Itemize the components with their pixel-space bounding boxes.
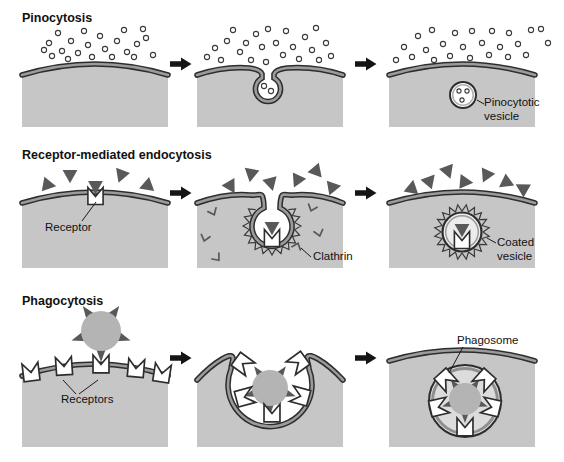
endocytosis-figure: Pinocytosis Receptor-mediated endocytosi… [0,0,564,462]
row-title-receptor-mediated: Receptor-mediated endocytosis [22,148,212,162]
step-arrow-icon [355,351,377,364]
phagocytosis-stage-1 [22,306,171,447]
callout-coated-vesicle: Coated vesicle [497,236,543,263]
particle [72,306,131,362]
pinocytosis-stage-2 [197,25,343,127]
step-arrow-icon [170,186,192,199]
cytoplasm [22,64,168,127]
cytoplasm [197,68,343,127]
pinocytosis-stage-1 [22,26,168,127]
row-phagocytosis [22,306,535,447]
row-title-pinocytosis: Pinocytosis [22,11,92,25]
pinocytotic-vesicle [450,82,476,108]
row-receptor-mediated-endocytosis [22,163,535,268]
callout-phagosome: Phagosome [457,334,518,348]
phagocytosis-stage-3 [389,350,535,447]
row-pinocytosis [22,25,551,127]
step-arrow-icon [355,186,377,199]
step-arrow-icon [170,57,192,70]
phagocytosis-stage-2 [197,351,343,447]
callout-pinocytotic-vesicle: Pinocytotic vesicle [484,96,546,123]
solute-dots [41,26,155,61]
solute-dots [393,26,550,62]
row-title-phagocytosis: Phagocytosis [22,294,103,308]
callout-receptors: Receptors [61,393,113,407]
callout-receptor: Receptor [45,221,92,235]
particle [244,366,295,415]
callout-clathrin: Clathrin [313,250,353,264]
step-arrow-icon [170,351,192,364]
step-arrow-icon [355,57,377,70]
